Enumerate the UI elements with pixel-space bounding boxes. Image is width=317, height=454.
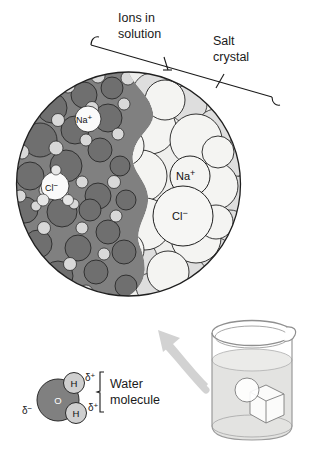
salt-crystal-line1: Salt bbox=[213, 34, 235, 48]
ions-in-solution-line1: Ions in bbox=[118, 11, 155, 25]
diagram-canvas: Ions in solution Salt crystal bbox=[0, 0, 317, 454]
figure-root: Ions in solution Salt crystal bbox=[0, 0, 317, 454]
water-molecule-diagram: O H H δ+ δ+ δ− Water molecule bbox=[22, 371, 160, 424]
bracket-left-hook bbox=[91, 37, 99, 45]
delta-minus-left: δ− bbox=[22, 404, 33, 416]
beaker-rim-outer bbox=[212, 321, 292, 346]
salt-crystal-label-group: Salt crystal bbox=[213, 34, 249, 64]
magnifier-circle bbox=[235, 378, 259, 402]
delta-plus-lower: δ+ bbox=[88, 401, 99, 413]
ions-in-solution-label-group: Ions in solution bbox=[118, 11, 161, 41]
water-molecule-line2: molecule bbox=[110, 393, 160, 407]
water-molecule-line1: Water bbox=[110, 377, 143, 391]
oxygen-label: O bbox=[54, 395, 61, 406]
magnification-arrow bbox=[158, 330, 208, 390]
beaker-illustration bbox=[208, 321, 300, 445]
arrow-tail bbox=[168, 347, 206, 390]
hydrogen-upper-label: H bbox=[71, 378, 78, 389]
beaker-spout bbox=[284, 327, 296, 341]
bracket-mid-tick-left bbox=[164, 57, 168, 70]
hydrogen-lower-label: H bbox=[73, 408, 80, 419]
bracket-right-hook bbox=[272, 97, 280, 105]
ions-in-solution-line2: solution bbox=[118, 27, 161, 41]
beaker-rim-inner bbox=[215, 326, 289, 348]
delta-plus-upper: δ+ bbox=[85, 371, 96, 383]
salt-crystal-line2: crystal bbox=[213, 50, 249, 64]
